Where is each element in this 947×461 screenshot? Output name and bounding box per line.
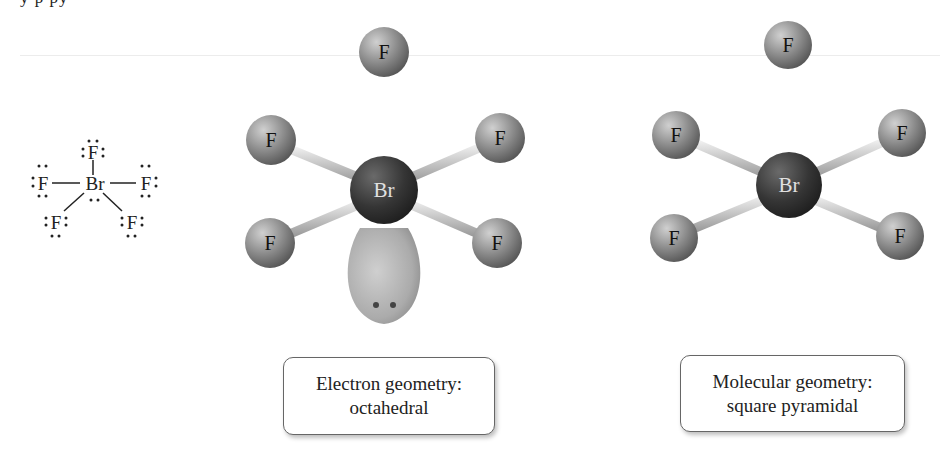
molecular-geometry-title: Molecular geometry: [681, 370, 904, 394]
atom-label-f: F [668, 227, 679, 249]
molecular-geometry-label: Molecular geometry: square pyramidal [680, 355, 905, 432]
atom-label-f: F [896, 122, 907, 144]
atom-label-f: F [494, 127, 505, 149]
atom-label-f: F [264, 232, 275, 254]
electron-geometry-title: Electron geometry: [284, 372, 494, 396]
lewis-atom-f-right: F [141, 173, 152, 194]
lewis-atom-br: Br [86, 173, 106, 194]
atom-label-f: F [491, 232, 502, 254]
electron-geometry-value: octahedral [284, 396, 494, 420]
lewis-atom-f-lower-left: F [51, 212, 62, 233]
electron-geometry-label: Electron geometry: octahedral [283, 357, 495, 435]
lewis-atom-f-lower-right: F [127, 212, 138, 233]
molecular-geometry-value: square pyramidal [681, 394, 904, 418]
lone-pair-electron [390, 302, 396, 308]
lewis-bond-lower-right [103, 193, 122, 211]
lewis-bond-lower-left [64, 193, 84, 211]
lewis-atom-f-left: F [38, 173, 49, 194]
atom-label-f: F [894, 225, 905, 247]
atom-label-f: F [670, 124, 681, 146]
electron-geometry-model: F F F F F Br [245, 27, 525, 324]
lone-pair-electron [373, 302, 379, 308]
bond-lower-left [688, 196, 773, 231]
atom-label-br: Br [779, 173, 800, 197]
atom-label-f: F [265, 129, 276, 151]
lewis-atom-f-top: F [88, 142, 99, 163]
molecular-geometry-model: F F F F F Br [650, 21, 926, 262]
atom-label-f: F [378, 41, 389, 63]
atom-label-f: F [782, 34, 793, 56]
atom-label-br: Br [374, 178, 395, 202]
lewis-structure: F Br F F F F [32, 140, 158, 238]
lone-pair-lobe [348, 228, 421, 324]
